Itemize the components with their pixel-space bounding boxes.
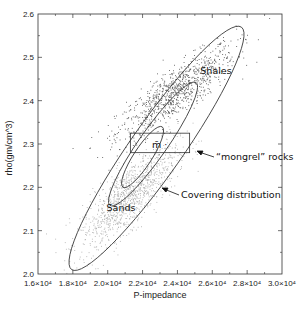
x-tick-label: 1.6×10⁴ [24,279,53,288]
mongrel-label: “mongrel” rocks [216,151,293,162]
covering-label: Covering distribution [181,189,281,200]
x-axis-label: P-impedance [133,290,186,300]
y-tick-label: 2.3 [23,140,35,149]
y-tick-label: 2.2 [23,183,35,192]
y-tick-label: 2.1 [23,227,35,236]
y-tick-label: 2.6 [23,10,35,19]
x-tick-label: 2.4×10⁴ [163,279,192,288]
mean-label: m̄ · [152,139,167,150]
x-tick-label: 1.8×10⁴ [59,279,88,288]
x-tick-label: 3.0×10⁴ [268,279,297,288]
x-tick-label: 2.2×10⁴ [129,279,158,288]
shales-label: Shales [200,65,231,76]
chart-canvas: 1.6×10⁴1.8×10⁴2.0×10⁴2.2×10⁴2.4×10⁴2.6×1… [0,0,304,309]
y-tick-label: 2.4 [23,97,35,106]
x-tick-label: 2.0×10⁴ [94,279,123,288]
y-tick-label: 2.5 [23,53,35,62]
x-tick-label: 2.8×10⁴ [233,279,262,288]
y-tick-label: 2.0 [23,270,35,279]
y-axis-label: rho(gm/cm^3) [4,120,14,175]
sands-label: Sands [107,202,136,213]
x-tick-label: 2.6×10⁴ [198,279,227,288]
